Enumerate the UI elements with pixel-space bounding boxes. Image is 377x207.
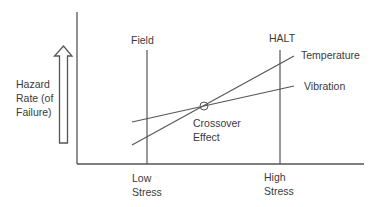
crossover-label: Crossover Effect [193, 116, 241, 144]
high-stress-line1: High [264, 170, 294, 184]
low-stress-line2: Stress [132, 185, 162, 199]
halt-label: HALT [269, 31, 295, 45]
crossover-label-line1: Crossover [193, 116, 241, 130]
low-stress-label: Low Stress [132, 171, 162, 199]
y-axis-label: Hazard Rate (of Failure) [16, 77, 53, 119]
y-axis-label-line3: Failure) [16, 105, 53, 119]
y-axis-label-line1: Hazard [16, 77, 53, 91]
field-label: Field [131, 33, 154, 47]
y-axis-label-line2: Rate (of [16, 91, 53, 105]
high-stress-line2: Stress [264, 184, 294, 198]
low-stress-line1: Low [132, 171, 162, 185]
vibration-label: Vibration [304, 79, 345, 93]
hazard-rate-diagram [0, 0, 377, 207]
up-arrow-icon [55, 46, 73, 143]
temperature-label: Temperature [301, 48, 360, 62]
high-stress-label: High Stress [264, 170, 294, 198]
crossover-label-line2: Effect [193, 130, 241, 144]
